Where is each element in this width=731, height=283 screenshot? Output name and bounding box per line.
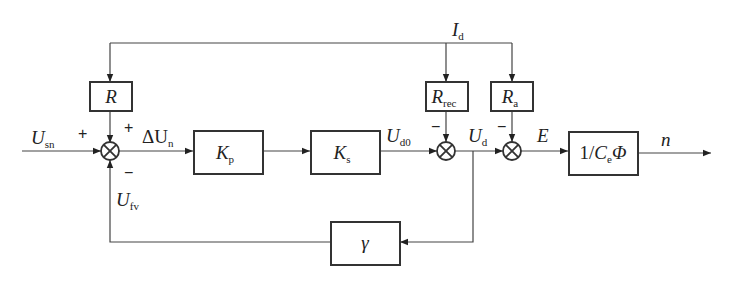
sum1-left-sign: +: [78, 125, 87, 142]
ks-block: Ks: [311, 131, 380, 174]
plant-block-label: C: [594, 142, 607, 163]
sum3-top-sign: −: [497, 118, 506, 135]
sum1-top-sign: +: [124, 119, 133, 136]
svg-text:γ: γ: [361, 232, 369, 253]
sum1-bottom-sign: −: [124, 164, 133, 181]
id-signal-label: Id: [451, 19, 464, 42]
ud-tap-wire: [400, 151, 473, 242]
r-block: R: [90, 82, 132, 111]
gamma-block-label: γ: [361, 232, 369, 253]
r-block-label: R: [104, 86, 117, 107]
emf-signal-label: E: [536, 125, 549, 146]
kp-block-subscript: p: [229, 153, 235, 165]
ud-signal-label: Ud: [468, 125, 488, 148]
ra-block-label: R: [501, 86, 514, 107]
ra-block-subscript: a: [513, 97, 518, 109]
ks-block-subscript: s: [346, 153, 350, 165]
ud0-signal-label: Ud0: [386, 125, 411, 148]
rrec-block-subscript: rec: [443, 97, 457, 109]
plant-block: 1/CeΦ: [569, 132, 638, 175]
feedback-signal-label: Ufv: [116, 189, 139, 212]
plant-block-suffix: Φ: [612, 142, 626, 163]
svg-text:R: R: [104, 86, 117, 107]
rrec-block: Rrec: [426, 82, 468, 111]
ra-block: Ra: [491, 82, 533, 111]
summing-junction-3: [503, 142, 521, 160]
error-signal-label: ΔUn: [142, 126, 174, 149]
gamma-block: γ: [331, 222, 400, 265]
input-signal-label: Usn: [31, 127, 55, 150]
sum2-top-sign: −: [431, 118, 440, 135]
kp-block: Kp: [194, 131, 263, 174]
summing-junction-1: [101, 142, 119, 160]
rrec-block-label: R: [430, 86, 443, 107]
output-signal-label: n: [661, 129, 671, 150]
svg-text:1/CeΦ: 1/CeΦ: [580, 142, 627, 165]
plant-block-prefix: 1/: [580, 142, 596, 163]
summing-junction-2: [437, 142, 455, 160]
block-diagram: R Kp Ks Rrec Ra 1/CeΦ γ + + − − −: [0, 0, 731, 283]
